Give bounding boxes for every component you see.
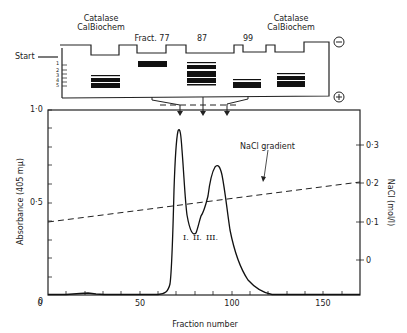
y2-tick-label-0: 0 xyxy=(366,256,371,265)
lane-1-label-1: Catalase xyxy=(66,14,136,23)
y2-tick-label-0.2: 0·2 xyxy=(366,179,379,188)
plot-frame xyxy=(48,110,360,295)
x-axis-title: Fraction number xyxy=(150,320,260,329)
peak-label-II: II. xyxy=(193,233,202,242)
x-tick-label-150: 150 xyxy=(311,299,335,308)
lane-5-label-2: CalBiochem xyxy=(256,23,326,32)
y2-tick-label-0.3: 0·3 xyxy=(366,141,379,150)
y2-tick-label-0.1: 0·1 xyxy=(366,218,379,227)
lane-1-label-2: CalBiochem xyxy=(66,23,136,32)
nacl-annotation-arrow xyxy=(264,150,268,178)
nacl-arrowhead xyxy=(261,176,266,182)
arrowheads xyxy=(177,111,230,116)
peak-label-III: III. xyxy=(206,233,218,242)
peak-label-I: I. xyxy=(183,233,189,242)
gel-bands xyxy=(91,61,305,88)
x-tick-label-100: 100 xyxy=(220,299,244,308)
lane-2-label: Fract. 77 xyxy=(130,34,174,43)
y-axis-title: Absorbance (405 mμ) xyxy=(16,152,25,252)
band-index-5: 5 xyxy=(56,83,59,88)
y2-axis-title: NaCl (mol/l) xyxy=(386,163,395,243)
x-tick-label-0: 0 xyxy=(32,299,48,308)
x-tick-label-50: 50 xyxy=(130,299,150,308)
lane-4-label: 99 xyxy=(236,34,260,43)
gel-index-ticks xyxy=(62,65,67,86)
lane-3-label: 87 xyxy=(190,34,214,43)
nacl-gradient-line xyxy=(48,182,360,222)
gel-outline xyxy=(38,42,329,98)
plus-electrode-icon xyxy=(334,92,344,102)
start-label: Start xyxy=(15,52,35,61)
y-tick-label-1.0: 1·0 xyxy=(30,105,43,114)
minus-electrode-icon xyxy=(334,37,344,47)
y-tick-label-0.5: 0·5 xyxy=(30,198,43,207)
figure-canvas xyxy=(0,0,407,333)
nacl-gradient-annotation: NaCl gradient xyxy=(240,142,295,151)
absorbance-curve xyxy=(48,130,360,295)
lane-5-label-1: Catalase xyxy=(256,14,326,23)
band-index-1: 1 xyxy=(56,61,59,66)
